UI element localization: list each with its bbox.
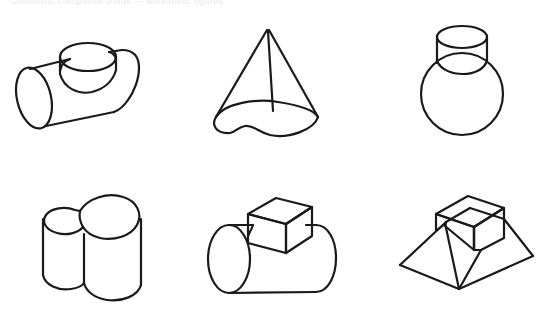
left-cylinder-bottom-arc — [43, 275, 84, 289]
cone-base-back-arc — [216, 101, 318, 117]
cylinder-right-cap — [316, 225, 336, 292]
cylinder-bottom-edge — [229, 292, 316, 293]
neck-bottom-front-arc — [437, 61, 487, 74]
neck-top-ellipse — [437, 26, 487, 48]
figure-1-horizontal-cylinder-with-vertical-cylinder — [8, 22, 168, 142]
cone-center-edge — [268, 31, 273, 111]
right-cylinder-bottom-arc — [84, 283, 141, 300]
vertical-cylinder-top-ellipse — [60, 43, 116, 71]
cylinder-right-cap — [114, 50, 139, 112]
figure-4-two-fused-vertical-cylinders — [22, 186, 152, 311]
fused-top-seam — [80, 211, 83, 227]
fused-top-outline — [44, 195, 139, 239]
pyramid-base-front — [400, 256, 533, 289]
cylinder-intersection-curve — [60, 70, 116, 93]
sphere-body — [421, 53, 503, 135]
cube-left-face — [436, 214, 474, 250]
figure-5-horizontal-cylinder-with-cube — [198, 186, 358, 311]
cylinder-left-cap — [10, 64, 57, 132]
pyramid-top-back-right — [470, 208, 504, 219]
cone-base-irregular-front — [214, 117, 318, 136]
cylinder-left-cap — [208, 225, 250, 293]
pyramid-right-slope — [504, 219, 533, 256]
header-faint-text: Geometric composite solids — worksheet f… — [10, 0, 530, 6]
figure-3-sphere-with-cylindrical-neck — [396, 16, 536, 151]
cube-right-face — [286, 207, 312, 253]
cube-left-face — [248, 214, 286, 253]
figure-sheet: Geometric composite solids — worksheet f… — [0, 0, 541, 323]
figure-6-cube-on-truncated-pyramid — [392, 186, 541, 311]
pyramid-top-back-left — [446, 208, 470, 222]
cylinder-bottom-edge — [46, 112, 114, 126]
figure-2-cone-on-irregular-base — [196, 22, 356, 147]
cube-top-face — [248, 198, 312, 224]
